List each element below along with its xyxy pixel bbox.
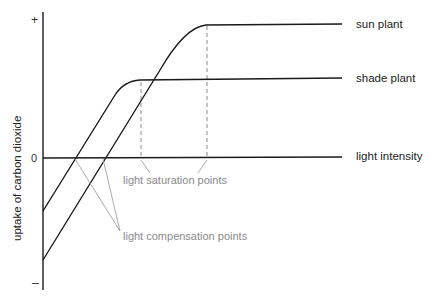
y-axis-label: uptake of carbon dioxide xyxy=(11,116,23,241)
saturation-points-label: light saturation points xyxy=(123,174,227,186)
compensation-leader-1 xyxy=(75,159,120,231)
y-axis-plus-symbol: + xyxy=(31,13,38,27)
compensation-points-label: light compensation points xyxy=(123,230,248,242)
shade-plant-curve xyxy=(43,78,342,211)
photosynthesis-light-curve-diagram: + 0 – uptake of carbon dioxide sun plant… xyxy=(0,0,436,303)
y-axis-zero-label: 0 xyxy=(31,152,37,164)
x-axis xyxy=(43,157,342,158)
shade-plant-label: shade plant xyxy=(356,72,416,84)
y-axis-minus-symbol: – xyxy=(32,276,39,290)
sun-plant-curve xyxy=(43,24,342,260)
x-axis-label: light intensity xyxy=(356,150,423,162)
saturation-leader-1 xyxy=(141,160,150,173)
sun-plant-label: sun plant xyxy=(356,18,403,30)
compensation-leader-2 xyxy=(103,159,120,231)
saturation-leader-2 xyxy=(198,160,207,173)
